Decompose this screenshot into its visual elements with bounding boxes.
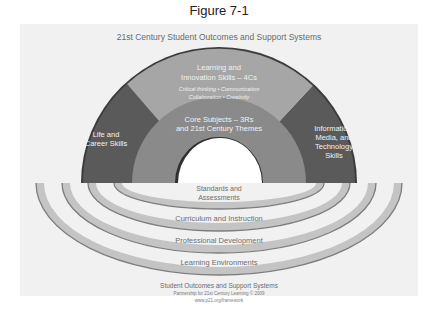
p21-framework-diagram: 21st Century Student Outcomes and Suppor… — [0, 0, 438, 318]
footer-title: Student Outcomes and Support Systems — [160, 282, 279, 290]
core-subjects-label-1: Core Subjects – 3Rs — [185, 115, 254, 124]
professional-development-label: Professional Development — [175, 236, 263, 245]
info-media-tech-label-2: Media, and — [315, 133, 352, 142]
standards-label-2: Assessments — [198, 194, 240, 201]
life-career-label-2: Career Skills — [85, 139, 128, 148]
life-career-label-1: Life and — [93, 130, 120, 139]
learning-innovation-sub-1: Critical thinking • Communication — [179, 86, 259, 92]
diagram-title: 21st Century Student Outcomes and Suppor… — [117, 32, 322, 42]
learning-innovation-sub-2: Collaboration • Creativity — [189, 94, 251, 100]
info-media-tech-label-4: Skills — [325, 151, 343, 160]
curriculum-label: Curriculum and Instruction — [175, 214, 263, 223]
info-media-tech-label-3: Technology — [315, 142, 353, 151]
core-subjects-label-2: and 21st Century Themes — [176, 124, 262, 133]
learning-innovation-label-2: Innovation Skills – 4Cs — [181, 73, 257, 82]
footer-credit: Partnership for 21st Century Learning © … — [174, 290, 265, 296]
learning-environments-label: Learning Environments — [180, 258, 257, 267]
standards-label-1: Standards and — [196, 185, 242, 192]
diagram-footer: Student Outcomes and Support Systems Par… — [160, 282, 279, 303]
info-media-tech-label-1: Information, — [314, 124, 354, 133]
learning-innovation-label-1: Learning and — [197, 63, 241, 72]
footer-url: www.p21.org/framework — [195, 298, 244, 303]
